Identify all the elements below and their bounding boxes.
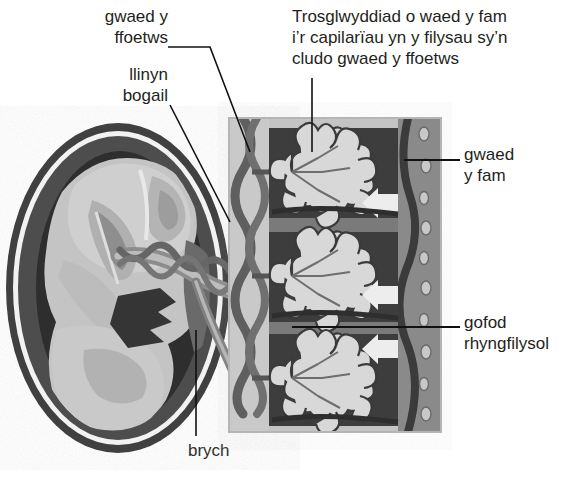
placenta-cross-section-panel bbox=[229, 118, 441, 434]
diagram-artwork bbox=[0, 0, 581, 480]
diagram-canvas: gwaed y ffoetws llinyn bogail Trosglwydd… bbox=[0, 0, 581, 480]
